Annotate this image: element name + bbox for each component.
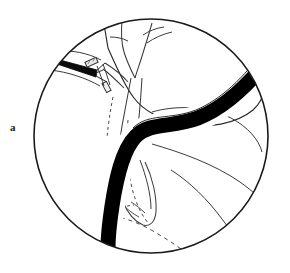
illustration-canvas — [0, 0, 290, 273]
panel-label: a — [10, 122, 16, 133]
surgical-illustration-figure: a — [0, 0, 290, 273]
